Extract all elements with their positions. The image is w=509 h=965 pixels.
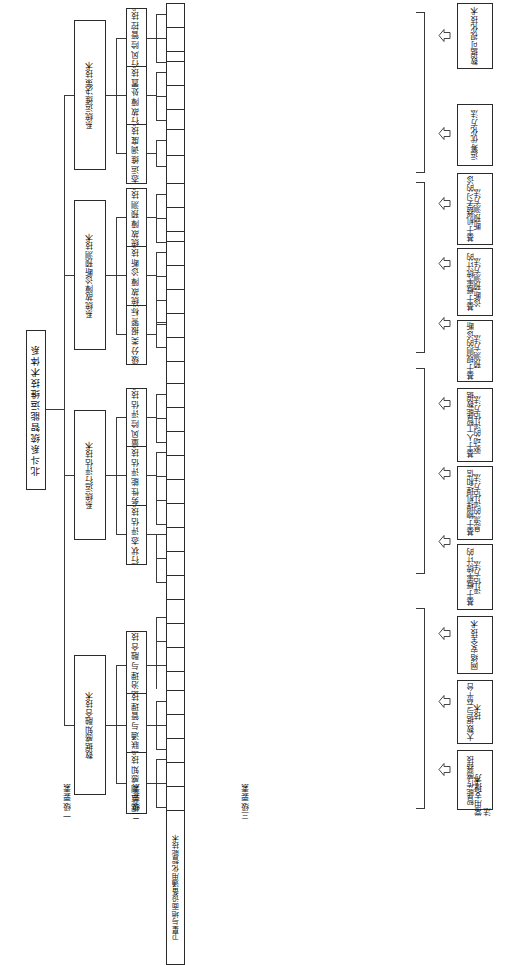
support-node-2: 基于机器学习的诊断预测方法	[457, 173, 493, 245]
level2-node-3-label: 系统故障预测技术	[132, 188, 140, 248]
connector-level3-21	[156, 476, 166, 477]
connector-l3-spine-2	[156, 140, 157, 166]
connector-level3-2	[156, 62, 166, 63]
connector-level1-0	[64, 95, 74, 96]
connector-level2-2	[116, 153, 126, 154]
connector-level3-13	[156, 300, 166, 301]
connector-level2-11	[116, 783, 126, 784]
arrow-left-icon-6	[438, 466, 451, 481]
arrow-left-icon-3	[438, 256, 451, 271]
connector-level3-12	[156, 276, 166, 277]
support-node-4-label: 基于规则的诊断预测方法	[467, 321, 483, 381]
connector-level2-5	[116, 334, 126, 335]
connector-level3-30	[156, 701, 166, 702]
bracket-support-group-c-bot	[416, 573, 425, 574]
level2-node-4-label: 系统故障诊断技术	[132, 246, 140, 306]
level2-node-10-label: 数据联通与管理技术	[132, 693, 140, 757]
connector-level2-1	[116, 95, 126, 96]
connector-l3-spine-7	[156, 452, 157, 524]
connector-l2-2-out	[147, 153, 156, 154]
connector-level3-20	[156, 452, 166, 453]
arrow-left-icon-7	[438, 534, 451, 549]
connector-level3-35	[156, 807, 166, 808]
connector-l3-spine-4	[156, 252, 157, 324]
bracket-support-group-b	[424, 182, 425, 352]
connector-level3-34	[156, 783, 166, 784]
level1-node-2: 系统运行评估技术	[74, 410, 106, 540]
connector-level3-1	[156, 38, 166, 39]
bracket-support-group-c	[424, 368, 425, 573]
connector-l1-3-out	[106, 725, 116, 726]
arrow-left-icon-5	[438, 396, 451, 411]
connector-level1-3	[64, 725, 74, 726]
support-node-5: 基于人工智能数据驱动的评估方法	[457, 388, 493, 462]
connector-level3-8	[156, 194, 166, 195]
connector-l2-0-out	[147, 38, 156, 39]
level2-node-0-label: 运行风险管控技术	[132, 8, 140, 70]
support-node-6-label: 基于物理机理和信息流的评估方法	[467, 467, 483, 539]
support-node-8-label: 网络安全技术	[471, 620, 479, 670]
support-node-7-label: 基于概率统计的评估方法	[467, 545, 483, 609]
level2-node-8-label: 运行状态评估技术	[132, 505, 140, 565]
connector-level3-11	[156, 252, 166, 253]
connector-level3-26	[156, 582, 166, 583]
arrow-left-icon-2	[438, 196, 451, 211]
connector-level3-27	[156, 617, 166, 618]
level1-node-3: 数据感知融合技术	[74, 655, 106, 795]
connector-level3-9	[156, 218, 166, 219]
arrow-left-icon-8	[438, 626, 451, 641]
connector-l3-spine-5	[156, 322, 157, 347]
level2-node-2: 常态运维调度技术	[126, 124, 147, 184]
support-node-4: 基于规则的诊断预测方法	[457, 320, 493, 382]
support-node-1: 运筹优化方法	[457, 104, 493, 166]
connector-level2-4	[116, 275, 126, 276]
level2-node-6: 质量风险评估技术	[126, 388, 147, 448]
arrow-left-icon-9	[438, 694, 451, 709]
connector-l2-1-out	[147, 95, 156, 96]
bracket-support-group-b-top	[416, 182, 425, 183]
connector-level3-16	[156, 347, 166, 348]
connector-l2-3-out	[147, 217, 156, 218]
support-node-2-label: 基于机器学习的诊断预测方法	[467, 174, 483, 244]
support-node-3: 基于概率统计的诊断预测方法	[457, 248, 493, 316]
level2-node-1: 运行故障处置技术	[126, 66, 147, 126]
support-node-6: 基于物理机理和信息流的评估方法	[457, 466, 493, 540]
connector-level3-4	[156, 96, 166, 97]
connector-level3-32	[156, 749, 166, 750]
level2-node-7-label: 服务性能评估技术	[132, 446, 140, 506]
support-node-1-label: 运筹优化方法	[471, 110, 479, 160]
arrow-left-icon-0	[438, 28, 451, 43]
connector-level3-24	[156, 534, 166, 535]
connector-level2-9	[116, 665, 126, 666]
support-node-0-label: 数据可视化技术	[471, 7, 479, 65]
connector-l2-6-out	[147, 417, 156, 418]
connector-l2-4-out	[147, 275, 156, 276]
connector-level3-25	[156, 558, 166, 559]
level2-node-9: 数据治理与融合技术	[126, 631, 147, 699]
caption-level1: 一级要素	[62, 782, 73, 820]
level2-node-3: 系统故障预测技术	[126, 188, 147, 248]
connector-l2-5-out	[147, 334, 156, 335]
level2-node-9-label: 数据治理与融合技术	[132, 631, 140, 699]
connector-l1-1-out	[106, 275, 116, 276]
connector-level3-33	[156, 759, 166, 760]
connector-level3-18	[156, 418, 166, 419]
support-node-3-label: 基于概率统计的诊断预测方法	[467, 249, 483, 315]
connector-level3-23	[156, 524, 166, 525]
connector-l2-10-out	[147, 725, 156, 726]
connector-level3-5	[156, 120, 166, 121]
connector-level3-6	[156, 140, 166, 141]
support-node-0: 数据可视化技术	[457, 3, 493, 69]
caption-level2: 二级要素	[131, 782, 142, 820]
connector-level3-0	[156, 14, 166, 15]
connector-level3-28	[156, 641, 166, 642]
connector-level2-8	[116, 534, 126, 535]
connector-level3-7	[156, 166, 166, 167]
connector-l2-8-out	[147, 534, 156, 535]
level2-node-2-label: 常态运维调度技术	[132, 124, 140, 184]
arrow-left-icon-10	[438, 762, 451, 777]
caption-level3: 三级要素	[240, 782, 251, 820]
arrow-left-icon-1	[438, 126, 451, 141]
support-node-9: 大数据与云平台技术	[457, 680, 493, 744]
connector-level3-15	[156, 322, 166, 323]
